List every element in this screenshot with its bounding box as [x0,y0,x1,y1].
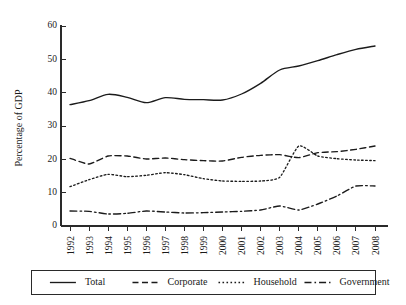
x-tick-label: 1999 [199,236,209,255]
legend-label-corporate: Corporate [167,276,208,287]
legend-label-government: Government [339,276,389,287]
x-tick-label: 2004 [294,236,304,255]
line-chart: Percentage of GDP 0102030405060 19921993… [0,0,406,305]
x-tick-label: 1996 [142,236,152,255]
x-tick-label: 2007 [351,236,361,255]
x-axis-tick-labels: 1992199319941995199619971998199920002001… [66,236,381,255]
x-tick-label: 1994 [104,236,114,255]
series-line-household [70,146,375,187]
x-tick-label: 2002 [256,236,266,255]
x-tick-label: 2003 [275,236,285,255]
y-axis-title-group: Percentage of GDP [13,89,24,167]
series-line-corporate [70,146,375,164]
chart-legend: TotalCorporateHouseholdGovernment [31,270,390,294]
x-tick-label: 2008 [371,236,381,255]
chart-page: Percentage of GDP 0102030405060 19921993… [0,0,406,305]
x-tick-label: 2006 [332,236,342,255]
x-tick-label: 2000 [218,236,228,255]
y-tick-label: 40 [48,87,58,97]
x-tick-label: 1997 [161,236,171,255]
x-tick-label: 1992 [66,236,76,255]
axis-lines [61,25,388,231]
legend-label-household: Household [253,276,296,287]
series-line-total [70,46,375,105]
data-series-group [70,46,375,214]
y-tick-label: 20 [48,154,58,164]
legend-label-total: Total [85,276,106,287]
y-axis-title: Percentage of GDP [13,89,24,167]
y-tick-label: 60 [48,20,58,30]
x-tick-label: 2005 [313,236,323,255]
x-tick-label: 1998 [180,236,190,255]
x-tick-label: 2001 [237,236,247,255]
y-tick-label: 0 [52,220,57,230]
x-tick-label: 1995 [123,236,133,255]
y-tick-label: 30 [48,120,58,130]
y-tick-label: 50 [48,54,58,64]
y-tick-label: 10 [48,187,58,197]
y-axis-tick-labels: 0102030405060 [48,20,58,230]
x-tick-label: 1993 [85,236,95,255]
series-line-government [70,186,375,214]
